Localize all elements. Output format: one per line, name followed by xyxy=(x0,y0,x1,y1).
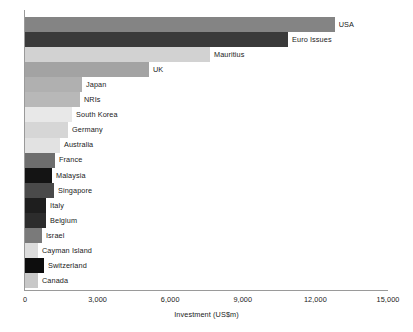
x-tick-label: 3,000 xyxy=(88,295,107,304)
bar-label: Japan xyxy=(86,81,106,88)
bar-row: Australia xyxy=(25,138,388,153)
bar-row: UK xyxy=(25,62,388,77)
bar-row: South Korea xyxy=(25,107,388,122)
x-tick-label: 9,000 xyxy=(233,295,252,304)
bar-australia xyxy=(25,138,60,153)
bar-chart: USAEuro IssuesMauritiusUKJapanNRIsSouth … xyxy=(0,0,413,332)
bar-cayman-island xyxy=(25,243,38,258)
bar-mauritius xyxy=(25,47,210,62)
bar-usa xyxy=(25,17,335,32)
bar-row: Canada xyxy=(25,273,388,288)
plot-area: USAEuro IssuesMauritiusUKJapanNRIsSouth … xyxy=(25,10,388,290)
bar-series: USAEuro IssuesMauritiusUKJapanNRIsSouth … xyxy=(25,17,388,288)
bar-japan xyxy=(25,77,82,92)
bar-label: Australia xyxy=(64,141,93,148)
bar-germany xyxy=(25,122,68,137)
bar-row: Malaysia xyxy=(25,168,388,183)
bar-france xyxy=(25,153,55,168)
x-axis-ticks: 03,0006,0009,00012,00015,000 xyxy=(0,295,413,309)
x-tick-label: 0 xyxy=(23,295,27,304)
bar-label: Cayman Island xyxy=(42,247,92,254)
bar-label: South Korea xyxy=(76,111,118,118)
bar-row: NRIs xyxy=(25,92,388,107)
x-axis-line xyxy=(24,290,388,291)
bar-euro-issues xyxy=(25,32,288,47)
bar-row: Israel xyxy=(25,228,388,243)
bar-row: France xyxy=(25,153,388,168)
bar-label: Singapore xyxy=(58,187,92,194)
bar-singapore xyxy=(25,183,54,198)
bar-label: Israel xyxy=(46,232,64,239)
bar-row: Belgium xyxy=(25,213,388,228)
bar-row: Switzerland xyxy=(25,258,388,273)
x-axis-title: Investment (US$m) xyxy=(0,310,413,319)
bar-row: Cayman Island xyxy=(25,243,388,258)
bar-row: Japan xyxy=(25,77,388,92)
bar-label: NRIs xyxy=(84,96,101,103)
bar-row: Germany xyxy=(25,122,388,137)
bar-italy xyxy=(25,198,46,213)
x-tick-label: 15,000 xyxy=(377,295,400,304)
bar-south-korea xyxy=(25,107,72,122)
bar-belgium xyxy=(25,213,46,228)
bar-israel xyxy=(25,228,42,243)
bar-row: Singapore xyxy=(25,183,388,198)
bar-label: Canada xyxy=(42,277,68,284)
bar-label: Belgium xyxy=(50,217,77,224)
bar-canada xyxy=(25,273,38,288)
bar-row: Italy xyxy=(25,198,388,213)
bar-label: UK xyxy=(153,66,163,73)
bar-label: Euro Issues xyxy=(292,36,332,43)
bar-row: Euro Issues xyxy=(25,32,388,47)
bar-row: USA xyxy=(25,17,388,32)
bar-nris xyxy=(25,92,80,107)
bar-label: Malaysia xyxy=(56,172,86,179)
bar-malaysia xyxy=(25,168,52,183)
bar-label: Germany xyxy=(72,126,103,133)
bar-row: Mauritius xyxy=(25,47,388,62)
bar-switzerland xyxy=(25,258,44,273)
bar-label: France xyxy=(59,156,82,163)
bar-label: Italy xyxy=(50,202,64,209)
x-tick-label: 12,000 xyxy=(304,295,327,304)
bar-label: Switzerland xyxy=(48,262,87,269)
bar-label: USA xyxy=(339,21,354,28)
bar-uk xyxy=(25,62,149,77)
x-tick-label: 6,000 xyxy=(161,295,180,304)
bar-label: Mauritius xyxy=(214,51,245,58)
